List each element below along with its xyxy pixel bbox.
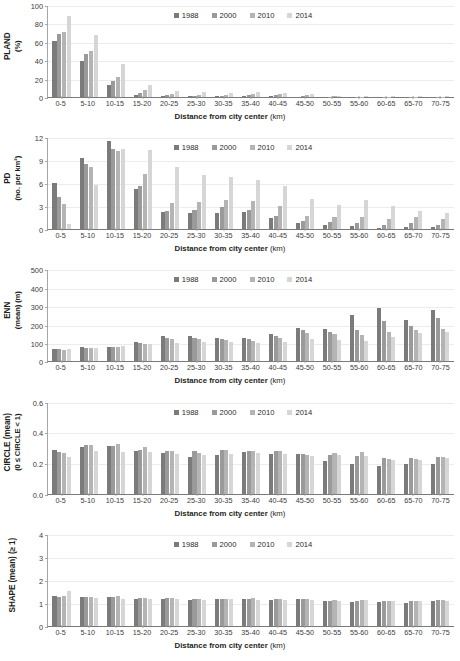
legend-swatch-icon [174, 145, 179, 150]
bar-2010 [360, 600, 364, 626]
x-tick-label: 50-55 [318, 231, 345, 242]
x-tick-label: 15-20 [128, 99, 155, 110]
y-axis-title-main: PLAND [3, 32, 12, 60]
plot-area: 0.00.20.40.61988200020102014 [26, 403, 460, 495]
bar-2010 [62, 32, 66, 97]
x-tick-label: 25-30 [183, 231, 210, 242]
x-axis-title: Distance from city center (km) [0, 509, 460, 518]
y-tick-label: 100 [31, 339, 43, 348]
x-tick-label: 15-20 [128, 496, 155, 507]
y-axis-title-main: SHAPE (mean) (≥ 1) [8, 537, 17, 612]
bar-1988 [134, 342, 138, 361]
bar-2010 [143, 447, 147, 494]
legend-item-2000: 2000 [212, 143, 237, 152]
x-tick-label: 0-5 [47, 231, 74, 242]
bar-2014 [310, 94, 314, 97]
bar-2014 [445, 213, 449, 229]
legend: 1988200020102014 [26, 540, 460, 549]
legend-item-1988: 1988 [174, 275, 199, 284]
bar-2010 [360, 452, 364, 493]
bar-2010 [197, 453, 201, 494]
chart-panel-1: PLAND(%)02040608010019882000201020140-55… [0, 0, 460, 132]
bar-2010 [251, 94, 255, 97]
bar-2010 [197, 599, 201, 625]
bar-2000 [165, 451, 169, 493]
bar-2000 [192, 451, 196, 493]
bar-1988 [269, 96, 273, 97]
bar-1988 [269, 454, 273, 493]
x-tick-label: 25-30 [183, 628, 210, 639]
bar-2014 [256, 180, 260, 229]
bar-1988 [188, 457, 192, 494]
bar-2014 [337, 455, 341, 493]
x-axis-title-main: Distance from city center [175, 509, 268, 518]
bar-2000 [57, 597, 61, 626]
y-axis-title-unit: (no. per km²) [13, 156, 22, 201]
bar-2014 [445, 332, 449, 362]
bar-2010 [62, 204, 66, 229]
bar-1988 [269, 218, 273, 229]
bar-2014 [121, 64, 125, 97]
legend-label: 2010 [258, 275, 275, 284]
bar-1988 [107, 141, 111, 229]
x-tick-label: 50-55 [318, 496, 345, 507]
x-tick-label: 40-45 [264, 99, 291, 110]
bar-2010 [89, 445, 93, 494]
bar-1988 [377, 602, 381, 626]
bar-2014 [310, 339, 314, 361]
y-tick-label: 0.6 [33, 398, 43, 407]
bar-1988 [296, 328, 300, 361]
bar-2010 [251, 341, 255, 362]
bar-2014 [283, 93, 287, 97]
x-tick-label: 20-25 [156, 363, 183, 374]
bar-2000 [436, 457, 440, 493]
bar-2010 [414, 330, 418, 362]
legend-item-1988: 1988 [174, 11, 199, 20]
chart-panel-3: ENN(mean) (m)010020030040050019882000201… [0, 264, 460, 396]
x-tick-label: 15-20 [128, 231, 155, 242]
x-tick-label: 20-25 [156, 496, 183, 507]
x-axis-labels: 0-55-1010-1515-2020-2525-3030-3535-4040-… [47, 628, 454, 639]
legend-item-2014: 2014 [287, 275, 312, 284]
x-tick-label: 30-35 [210, 628, 237, 639]
bar-2010 [414, 459, 418, 493]
bar-2010 [143, 90, 147, 97]
legend-label: 2000 [220, 540, 237, 549]
x-tick-label: 0-5 [47, 99, 74, 110]
bar-2010 [251, 598, 255, 625]
bar-2014 [94, 185, 98, 229]
x-tick-label: 45-50 [291, 496, 318, 507]
legend-swatch-icon [212, 13, 217, 18]
bar-1988 [80, 61, 84, 97]
bar-2000 [192, 338, 196, 362]
bar-1988 [161, 453, 165, 493]
y-axis-title-main: CIRCLE (mean) [3, 413, 12, 471]
x-tick-label: 5-10 [74, 496, 101, 507]
bar-1988 [188, 213, 192, 229]
bar-2014 [310, 456, 314, 493]
x-tick-label: 20-25 [156, 628, 183, 639]
bar-2010 [414, 217, 418, 229]
bar-1988 [80, 347, 84, 361]
x-tick-label: 35-40 [237, 363, 264, 374]
bar-2000 [84, 54, 88, 97]
legend-label: 2000 [220, 408, 237, 417]
bar-2000 [328, 455, 332, 493]
legend-item-2010: 2010 [250, 143, 275, 152]
legend-swatch-icon [212, 542, 217, 547]
bar-2014 [148, 599, 152, 625]
bar-2010 [197, 339, 201, 361]
bar-1988 [107, 347, 111, 361]
bar-2010 [332, 334, 336, 361]
bar-2000 [247, 210, 251, 229]
y-axis-title-unit: (0 ≤ CIRCLE < 1) [13, 414, 22, 471]
x-tick-label: 40-45 [264, 363, 291, 374]
bar-1988 [242, 212, 246, 230]
x-tick-label: 0-5 [47, 363, 74, 374]
bar-2000 [111, 149, 115, 229]
x-axis-title: Distance from city center (km) [0, 244, 460, 253]
bar-1988 [377, 466, 381, 493]
bar-2010 [305, 333, 309, 362]
y-tick-label: 40 [35, 57, 43, 66]
bar-2000 [274, 451, 278, 493]
